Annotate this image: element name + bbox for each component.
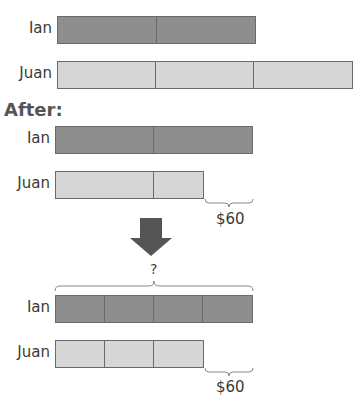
bar-unit	[58, 62, 156, 88]
bar-unit	[156, 62, 254, 88]
bar-unit	[56, 296, 105, 322]
bar-unit	[254, 62, 352, 88]
total-unknown-label: ?	[150, 261, 157, 277]
bar-juan-before	[57, 61, 353, 89]
bar-unit	[56, 127, 154, 153]
bar-unit	[58, 17, 157, 43]
bar-unit	[56, 172, 154, 198]
bar-ian-final	[55, 295, 253, 323]
difference-label-after: $60	[216, 210, 245, 228]
brace-difference-after	[204, 198, 254, 208]
bar-ian-after	[55, 126, 253, 154]
bar-juan-final	[55, 340, 204, 368]
after-heading: After:	[4, 99, 63, 120]
row-label-ian-final: Ian	[0, 298, 50, 316]
bar-unit	[154, 341, 203, 367]
row-label-juan-before: Juan	[2, 64, 52, 82]
row-label-juan-final: Juan	[0, 343, 50, 361]
row-label-ian-before: Ian	[2, 19, 52, 37]
bar-juan-after	[55, 171, 204, 199]
bar-unit	[154, 127, 252, 153]
bar-unit	[105, 341, 154, 367]
bar-unit	[56, 341, 105, 367]
bar-unit	[157, 17, 256, 43]
bar-ian-before	[57, 16, 256, 44]
bar-unit	[154, 296, 203, 322]
bar-unit	[154, 172, 203, 198]
bar-unit	[105, 296, 154, 322]
difference-label-final: $60	[216, 378, 245, 396]
row-label-ian-after: Ian	[0, 129, 50, 147]
arrow-down-icon	[128, 218, 174, 258]
brace-difference-final	[204, 367, 254, 377]
bar-unit	[203, 296, 252, 322]
brace-total	[54, 280, 255, 292]
row-label-juan-after: Juan	[0, 174, 50, 192]
